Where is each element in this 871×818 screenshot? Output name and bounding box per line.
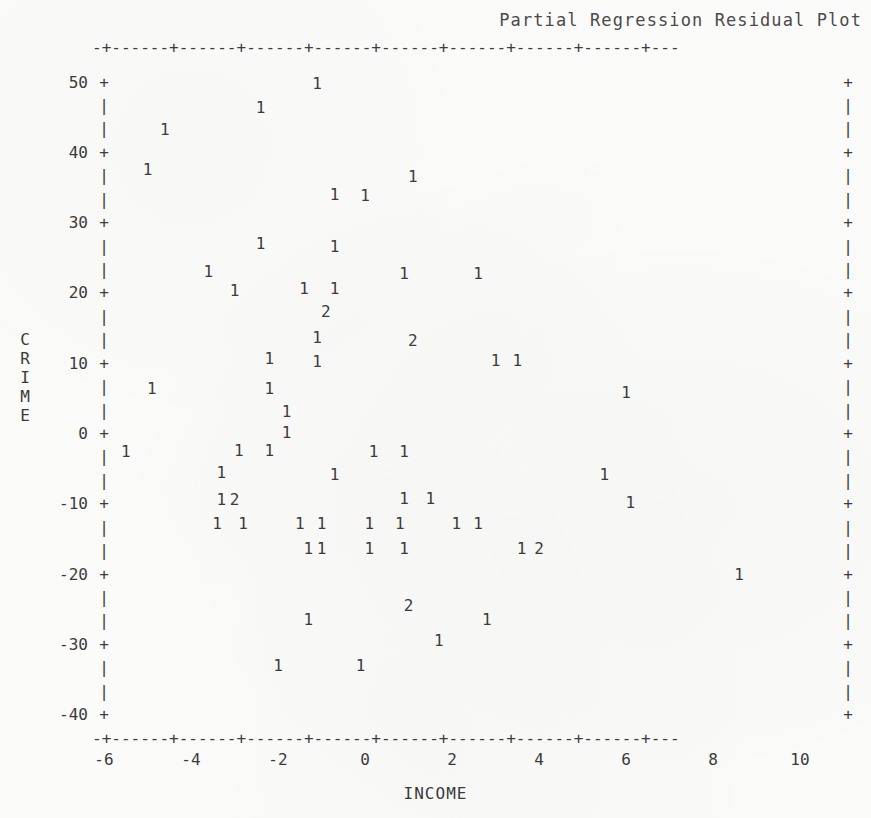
- right-axis-minor-mark: |: [841, 590, 855, 606]
- data-point: 2: [407, 333, 419, 349]
- left-axis-minor-mark: |: [97, 543, 111, 559]
- top-axis-rule: -+------+------+------+------+------+---…: [92, 40, 680, 56]
- data-point: 1: [363, 516, 375, 532]
- right-axis-minor-mark: |: [841, 613, 855, 629]
- paper-texture: [0, 0, 871, 818]
- right-axis-minor-mark: |: [841, 379, 855, 395]
- chart-title: Partial Regression Residual Plot: [0, 10, 862, 30]
- partial-regression-residual-plot: Partial Regression Residual Plot -+-----…: [0, 0, 871, 818]
- left-axis-tick: +: [97, 285, 111, 301]
- data-point: 1: [298, 281, 310, 297]
- y-axis-label-char: R: [18, 349, 32, 368]
- right-axis-tick: +: [841, 285, 855, 301]
- y-axis-label-char: C: [18, 330, 32, 349]
- right-axis-tick: +: [841, 426, 855, 442]
- data-point: 1: [329, 239, 341, 255]
- data-point: 1: [316, 541, 328, 557]
- right-axis-minor-mark: |: [841, 121, 855, 137]
- right-axis-tick: +: [841, 75, 855, 91]
- x-tick-label: 4: [519, 752, 559, 768]
- data-point: 1: [311, 330, 323, 346]
- left-axis-minor-mark: |: [97, 192, 111, 208]
- left-axis-minor-mark: |: [97, 473, 111, 489]
- data-point: 1: [398, 541, 410, 557]
- data-point: 1: [211, 516, 223, 532]
- right-axis-minor-mark: |: [841, 168, 855, 184]
- data-point: 1: [281, 425, 293, 441]
- right-axis-minor-mark: |: [841, 684, 855, 700]
- left-axis-tick: +: [97, 215, 111, 231]
- right-axis-tick: +: [841, 707, 855, 723]
- data-point: 2: [403, 598, 415, 614]
- data-point: 1: [263, 443, 275, 459]
- y-axis-label-char: E: [18, 406, 32, 425]
- left-axis-tick: +: [97, 707, 111, 723]
- y-axis-label-char: I: [18, 368, 32, 387]
- right-axis-minor-mark: |: [841, 543, 855, 559]
- y-axis-label: CRIME: [18, 330, 32, 425]
- x-tick-label: 2: [432, 752, 472, 768]
- data-point: 1: [229, 283, 241, 299]
- data-point: 1: [255, 236, 267, 252]
- data-point: 1: [202, 264, 214, 280]
- right-axis-minor-mark: |: [841, 262, 855, 278]
- y-tick-label: -20: [42, 567, 88, 583]
- data-point: 1: [472, 266, 484, 282]
- left-axis-minor-mark: |: [97, 262, 111, 278]
- left-axis-tick: +: [97, 567, 111, 583]
- data-point: 1: [237, 516, 249, 532]
- left-axis-tick: +: [97, 356, 111, 372]
- right-axis-minor-mark: |: [841, 520, 855, 536]
- data-point: 1: [302, 541, 314, 557]
- left-axis-minor-mark: |: [97, 590, 111, 606]
- data-point: 1: [733, 567, 745, 583]
- data-point: 1: [359, 188, 371, 204]
- data-point: 1: [398, 444, 410, 460]
- y-tick-label: 40: [42, 145, 88, 161]
- data-point: 1: [516, 541, 528, 557]
- right-axis-minor-mark: |: [841, 403, 855, 419]
- right-axis-minor-mark: |: [841, 192, 855, 208]
- data-point: 1: [302, 612, 314, 628]
- data-point: 1: [263, 381, 275, 397]
- x-tick-label: -2: [258, 752, 298, 768]
- data-point: 1: [450, 516, 462, 532]
- x-tick-label: 10: [780, 752, 820, 768]
- data-point: 1: [146, 381, 158, 397]
- right-axis-minor-mark: |: [841, 449, 855, 465]
- y-tick-label: 30: [42, 215, 88, 231]
- right-axis-minor-mark: |: [841, 239, 855, 255]
- y-axis-label-char: M: [18, 387, 32, 406]
- data-point: 1: [263, 351, 275, 367]
- y-tick-label: -40: [42, 707, 88, 723]
- right-axis-tick: +: [841, 215, 855, 231]
- data-point: 1: [142, 162, 154, 178]
- data-point: 1: [433, 633, 445, 649]
- x-tick-label: 8: [693, 752, 733, 768]
- left-axis-minor-mark: |: [97, 449, 111, 465]
- right-axis-minor-mark: |: [841, 332, 855, 348]
- right-axis-tick: +: [841, 145, 855, 161]
- data-point: 1: [490, 353, 502, 369]
- right-axis-tick: +: [841, 637, 855, 653]
- y-tick-label: 50: [42, 75, 88, 91]
- left-axis-minor-mark: |: [97, 403, 111, 419]
- data-point: 1: [281, 404, 293, 420]
- x-tick-label: 6: [606, 752, 646, 768]
- data-point: 1: [272, 658, 284, 674]
- data-point: 1: [424, 491, 436, 507]
- y-tick-label: -30: [42, 637, 88, 653]
- right-axis-minor-mark: |: [841, 473, 855, 489]
- data-point: 1: [215, 465, 227, 481]
- data-point: 1: [120, 444, 132, 460]
- left-axis-minor-mark: |: [97, 660, 111, 676]
- left-axis-minor-mark: |: [97, 98, 111, 114]
- left-axis-minor-mark: |: [97, 309, 111, 325]
- data-point: 1: [620, 385, 632, 401]
- right-axis-minor-mark: |: [841, 98, 855, 114]
- left-axis-minor-mark: |: [97, 613, 111, 629]
- left-axis-minor-mark: |: [97, 168, 111, 184]
- x-tick-label: 0: [345, 752, 385, 768]
- data-point: 1: [481, 612, 493, 628]
- left-axis-minor-mark: |: [97, 684, 111, 700]
